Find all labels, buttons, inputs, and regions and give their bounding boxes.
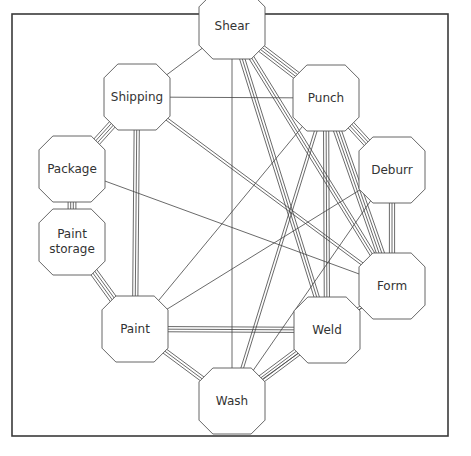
node-shear[interactable]: Shear <box>199 0 265 59</box>
node-punch[interactable]: Punch <box>293 65 359 131</box>
node-label: Paint <box>120 322 150 336</box>
node-label: storage <box>49 242 95 256</box>
node-label: Shipping <box>111 90 163 104</box>
node-label: Form <box>377 279 407 293</box>
edge-line <box>138 97 140 329</box>
edge-line <box>326 98 327 330</box>
edge-punch-weld <box>323 98 329 330</box>
node-label: Deburr <box>371 163 413 177</box>
node-label: Wash <box>216 394 248 408</box>
node-label: Shear <box>215 19 250 33</box>
edge-line <box>132 97 134 329</box>
edge-line <box>329 98 330 330</box>
edge-shipping-paint <box>132 97 139 329</box>
node-package[interactable]: Package <box>39 136 105 202</box>
node-label: Paint <box>57 227 87 241</box>
node-paint-storage[interactable]: Paintstorage <box>39 209 105 275</box>
edge-line <box>323 98 324 330</box>
edge-line <box>135 97 137 329</box>
diagram-canvas: ShearShippingPunchPackageDeburrPaintstor… <box>0 0 471 456</box>
node-wash[interactable]: Wash <box>199 368 265 434</box>
node-label: Weld <box>312 323 342 337</box>
edge-punch-paint <box>135 98 326 329</box>
relationship-diagram: ShearShippingPunchPackageDeburrPaintstor… <box>0 0 471 456</box>
node-paint[interactable]: Paint <box>102 296 168 362</box>
node-shipping[interactable]: Shipping <box>104 64 170 130</box>
node-deburr[interactable]: Deburr <box>359 137 425 203</box>
node-weld[interactable]: Weld <box>294 297 360 363</box>
node-form[interactable]: Form <box>359 253 425 319</box>
node-label: Package <box>47 162 97 176</box>
node-label: Punch <box>308 91 344 105</box>
edge-line <box>135 98 326 329</box>
